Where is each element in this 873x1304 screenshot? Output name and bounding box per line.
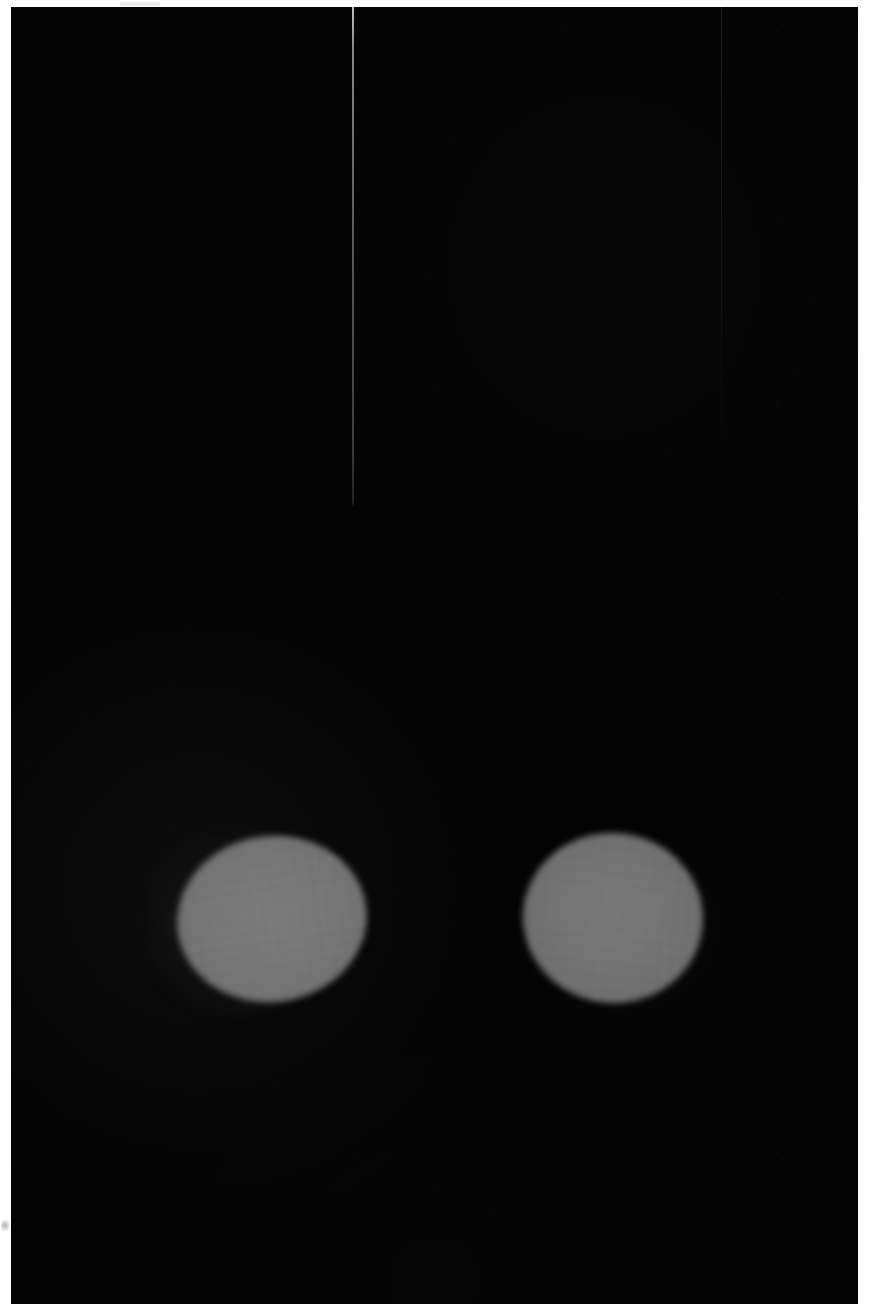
top-edge-artifact (120, 2, 160, 6)
left-bright-ellipse (166, 824, 377, 1015)
right-ellipse-halo (516, 825, 731, 1025)
image-caption (0, 0, 1, 1)
scan-margin-top (0, 0, 873, 7)
scan-margin-left (0, 0, 11, 1304)
scan-blemish-mark (1, 1219, 9, 1232)
plate-background-wash (11, 7, 858, 1304)
film-grain-noise (11, 7, 858, 1304)
left-ellipse-grain (166, 824, 377, 1015)
left-ellipse-halo (143, 825, 323, 1015)
left-ellipse-core (166, 824, 377, 1015)
scan-page (0, 0, 873, 1304)
right-ellipse-grain (515, 824, 712, 1012)
right-bright-ellipse (515, 824, 712, 1012)
faint-vertical-seam (721, 7, 722, 477)
film-plate (11, 7, 858, 1304)
scan-margin-right (858, 0, 873, 1304)
right-ellipse-core (515, 824, 712, 1012)
vertical-reference-line (352, 7, 354, 507)
